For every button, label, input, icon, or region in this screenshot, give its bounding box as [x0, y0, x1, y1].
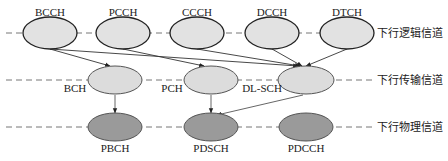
layer-label-logical: 下行逻辑信道: [377, 26, 443, 40]
label-pch: PCH: [161, 82, 182, 94]
node-pch: [184, 66, 238, 94]
label-ccch: CCCH: [182, 6, 212, 18]
node-pdsch: [184, 113, 238, 141]
edge-dlsch-pdsch: [217, 95, 303, 115]
node-dcch: [245, 17, 299, 49]
label-pbch: PBCH: [101, 142, 130, 154]
node-pdcch: [279, 113, 333, 141]
node-pbch: [88, 113, 142, 141]
lte-downlink-channel-mapping-diagram: BCCH PCCH CCCH DCCH DTCH BCH PCH DL-SCH …: [0, 0, 448, 161]
edge-ccch-dlsch: [197, 49, 300, 66]
label-bcch: BCCH: [35, 6, 65, 18]
node-bch: [88, 66, 142, 94]
edge-dtch-dlsch: [306, 49, 347, 66]
node-dlsch: [278, 66, 334, 94]
layer-label-physical: 下行物理信道: [377, 120, 443, 134]
label-pcch: PCCH: [109, 6, 138, 18]
physical-channel-nodes: PBCH PDSCH PDCCH: [88, 113, 333, 154]
logical-channel-nodes: BCCH PCCH CCCH DCCH DTCH: [23, 6, 374, 49]
edge-pcch-pch: [123, 49, 204, 66]
label-dlsch: DL-SCH: [242, 82, 282, 94]
label-bch: BCH: [64, 82, 87, 94]
edge-bcch-bch: [50, 49, 110, 66]
node-bcch: [23, 17, 77, 49]
node-ccch: [170, 17, 224, 49]
label-pdcch: PDCCH: [288, 142, 325, 154]
layer-label-transport: 下行传输信道: [377, 73, 443, 87]
node-dtch: [320, 17, 374, 49]
label-pdsch: PDSCH: [193, 142, 229, 154]
label-dtch: DTCH: [332, 6, 362, 18]
label-dcch: DCCH: [257, 6, 288, 18]
node-pcch: [96, 17, 150, 49]
transport-channel-nodes: BCH PCH DL-SCH: [64, 66, 334, 94]
edge-bcch-dlsch: [50, 49, 298, 66]
